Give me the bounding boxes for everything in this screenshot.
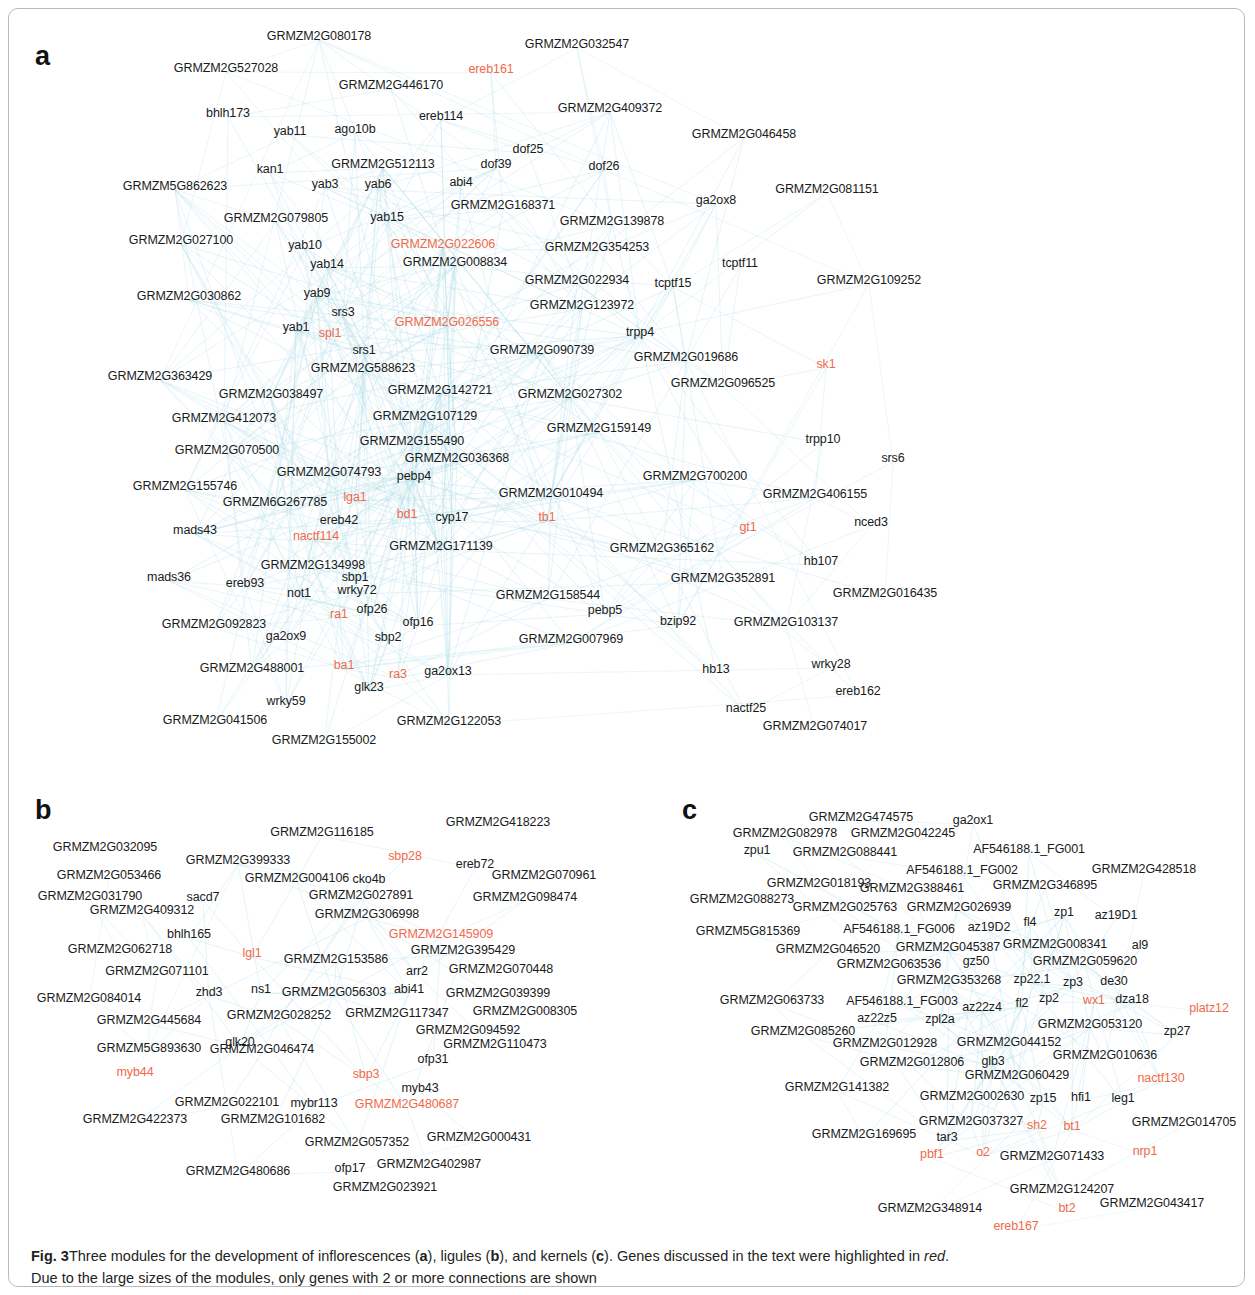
gene-node-label[interactable]: GRMZM2G070448: [449, 963, 553, 976]
gene-node-label[interactable]: glb3: [981, 1055, 1004, 1068]
gene-node-label[interactable]: GRMZM2G406155: [763, 488, 867, 501]
gene-node-label[interactable]: GRMZM2G107129: [373, 410, 477, 423]
gene-node-label[interactable]: GRMZM2G082978: [733, 827, 837, 840]
gene-node-label[interactable]: GRMZM2G025763: [793, 901, 897, 914]
gene-node-label[interactable]: pebp4: [397, 470, 431, 483]
gene-node-label[interactable]: srs1: [352, 344, 375, 357]
gene-node-label[interactable]: GRMZM2G116185: [270, 826, 373, 839]
gene-node-label[interactable]: myb44: [116, 1066, 153, 1079]
gene-node-label[interactable]: GRMZM2G022101: [175, 1096, 279, 1109]
gene-node-label[interactable]: GRMZM2G445684: [97, 1014, 201, 1027]
gene-node-label[interactable]: ereb161: [468, 63, 513, 76]
gene-node-label[interactable]: GRMZM2G037327: [919, 1115, 1023, 1128]
gene-node-label[interactable]: GRMZM2G027100: [129, 234, 233, 247]
gene-node-label[interactable]: GRMZM2G074793: [277, 466, 381, 479]
gene-node-label[interactable]: not1: [287, 587, 311, 600]
gene-node-label[interactable]: GRMZM2G155002: [272, 734, 376, 747]
gene-node-label[interactable]: lgl1: [242, 947, 261, 960]
gene-node-label[interactable]: GRMZM2G153586: [284, 953, 388, 966]
gene-node-label[interactable]: fl4: [1024, 916, 1037, 929]
gene-node-label[interactable]: GRMZM2G409372: [558, 102, 662, 115]
gene-node-label[interactable]: GRMZM5G893630: [97, 1042, 201, 1055]
gene-node-label[interactable]: wrky72: [338, 584, 377, 597]
gene-node-label[interactable]: pebp5: [588, 604, 622, 617]
gene-node-label[interactable]: GRMZM2G043417: [1100, 1197, 1204, 1210]
gene-node-label[interactable]: GRMZM2G046458: [692, 128, 796, 141]
gene-node-label[interactable]: GRMZM2G027891: [309, 889, 413, 902]
gene-node-label[interactable]: GRMZM2G110473: [443, 1038, 546, 1051]
gene-node-label[interactable]: GRMZM2G402987: [377, 1158, 481, 1171]
gene-node-label[interactable]: GRMZM5G862623: [123, 180, 227, 193]
gene-node-label[interactable]: mybr113: [290, 1097, 337, 1110]
gene-node-label[interactable]: AF546188.1_FG002: [906, 864, 1018, 877]
gene-node-label[interactable]: GRMZM2G026939: [907, 901, 1011, 914]
gene-node-label[interactable]: GRMZM2G395429: [411, 944, 515, 957]
gene-node-label[interactable]: GRMZM2G053466: [57, 869, 161, 882]
gene-node-label[interactable]: GRMZM2G446170: [339, 79, 443, 92]
gene-node-label[interactable]: kan1: [257, 163, 284, 176]
gene-node-label[interactable]: GRMZM2G056303: [282, 986, 386, 999]
gene-node-label[interactable]: az19D1: [1095, 909, 1138, 922]
gene-node-label[interactable]: yab6: [365, 178, 392, 191]
gene-node-label[interactable]: ns1: [251, 983, 271, 996]
gene-node-label[interactable]: GRMZM2G031790: [38, 890, 142, 903]
gene-node-label[interactable]: GRMZM2G588623: [311, 362, 415, 375]
gene-node-label[interactable]: sbp28: [388, 850, 422, 863]
gene-node-label[interactable]: GRMZM2G023921: [333, 1181, 437, 1194]
gene-node-label[interactable]: GRMZM2G012928: [833, 1037, 937, 1050]
gene-node-label[interactable]: ereb93: [226, 577, 264, 590]
gene-node-label[interactable]: abi41: [394, 983, 424, 996]
gene-node-label[interactable]: az22z5: [857, 1012, 897, 1025]
gene-node-label[interactable]: wrky59: [267, 695, 306, 708]
gene-node-label[interactable]: GRMZM2G045387: [896, 941, 1000, 954]
gene-node-label[interactable]: GRMZM2G019686: [634, 351, 738, 364]
gene-node-label[interactable]: al9: [1132, 939, 1148, 952]
gene-node-label[interactable]: GRMZM2G155490: [360, 435, 464, 448]
gene-node-label[interactable]: GRMZM2G092823: [162, 618, 266, 631]
gene-node-label[interactable]: zpl2a: [925, 1013, 954, 1026]
gene-node-label[interactable]: GRMZM2G004106: [245, 872, 349, 885]
gene-node-label[interactable]: GRMZM2G409312: [90, 904, 194, 917]
gene-node-label[interactable]: zp3: [1063, 976, 1083, 989]
gene-node-label[interactable]: GRMZM2G480687: [355, 1098, 459, 1111]
gene-node-label[interactable]: bt2: [1058, 1202, 1075, 1215]
gene-node-label[interactable]: GRMZM2G008305: [473, 1005, 577, 1018]
gene-node-label[interactable]: GRMZM6G267785: [223, 496, 327, 509]
gene-node-label[interactable]: o2: [976, 1146, 990, 1159]
gene-node-label[interactable]: GRMZM2G053120: [1038, 1018, 1142, 1031]
gene-node-label[interactable]: GRMZM2G008834: [403, 256, 507, 269]
gene-node-label[interactable]: cyp17: [436, 511, 469, 524]
gene-node-label[interactable]: nced3: [854, 516, 888, 529]
gene-node-label[interactable]: GRMZM2G399333: [186, 854, 290, 867]
gene-node-label[interactable]: wrky28: [812, 658, 851, 671]
gene-node-label[interactable]: lga1: [343, 491, 366, 504]
gene-node-label[interactable]: ba1: [334, 659, 355, 672]
gene-node-label[interactable]: hb107: [804, 555, 838, 568]
gene-node-label[interactable]: dof25: [513, 143, 544, 156]
gene-node-label[interactable]: ereb72: [456, 858, 494, 871]
gene-node-label[interactable]: GRMZM2G080178: [267, 30, 371, 43]
gene-node-label[interactable]: nrp1: [1133, 1145, 1158, 1158]
gene-node-label[interactable]: hb13: [702, 663, 729, 676]
gene-node-label[interactable]: GRMZM2G030862: [137, 290, 241, 303]
gene-node-label[interactable]: GRMZM2G122053: [397, 715, 501, 728]
gene-node-label[interactable]: GRMZM2G071101: [105, 965, 208, 978]
gene-node-label[interactable]: GRMZM2G079805: [224, 212, 328, 225]
gene-node-label[interactable]: bt1: [1063, 1120, 1080, 1133]
gene-node-label[interactable]: yab3: [312, 178, 339, 191]
gene-node-label[interactable]: GRMZM2G139878: [560, 215, 664, 228]
gene-node-label[interactable]: GRMZM2G159149: [547, 422, 651, 435]
gene-node-label[interactable]: yab15: [370, 211, 404, 224]
gene-node-label[interactable]: dof39: [481, 158, 512, 171]
gene-node-label[interactable]: GRMZM2G354253: [545, 241, 649, 254]
gene-node-label[interactable]: arr2: [406, 965, 428, 978]
gene-node-label[interactable]: yab14: [310, 258, 344, 271]
gene-node-label[interactable]: az19D2: [968, 921, 1011, 934]
gene-node-label[interactable]: dof26: [589, 160, 620, 173]
gene-node-label[interactable]: AF546188.1_FG003: [846, 995, 958, 1008]
gene-node-label[interactable]: ga2ox1: [953, 814, 993, 827]
gene-node-label[interactable]: az22z4: [962, 1001, 1002, 1014]
gene-node-label[interactable]: srs3: [331, 306, 354, 319]
gene-node-label[interactable]: myb43: [401, 1082, 438, 1095]
gene-node-label[interactable]: GRMZM2G363429: [108, 370, 212, 383]
